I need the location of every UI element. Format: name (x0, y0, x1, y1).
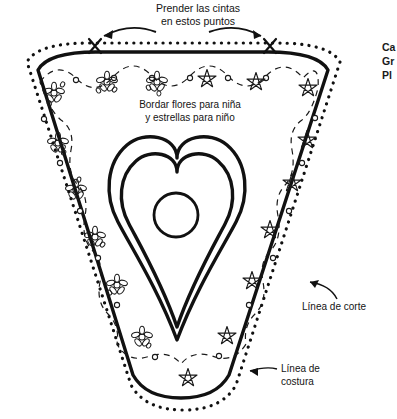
sewing-pattern-diagram: Prender las cintas en estos puntos Borda… (0, 0, 397, 419)
ribbon-arrow-right (209, 28, 261, 39)
flower-icon (131, 326, 153, 349)
top-instruction-note: Prender las cintas en estos puntos (156, 2, 240, 27)
top-note-line-1: Prender las cintas (156, 2, 240, 14)
top-note-line-2: en estos puntos (161, 15, 235, 27)
star-icon (218, 327, 236, 344)
cut-line-label: Línea de corte (302, 301, 366, 312)
center-note-line-2: y estrellas para niño (145, 112, 235, 123)
star-icon (299, 79, 317, 96)
star-icon (261, 221, 279, 238)
cut-line-label-text: Línea de corte (302, 301, 366, 312)
flower-icon (106, 274, 128, 296)
right-margin-truncated-text: Ca Gr Pl (382, 41, 396, 81)
star-icon (247, 73, 265, 90)
center-instruction-note: Bordar flores para niña y estrellas para… (139, 99, 241, 123)
seam-line-label: Línea de costura (281, 363, 320, 387)
seam-line-label-line-1: Línea de (281, 363, 320, 374)
star-icon (198, 70, 216, 87)
right-margin-line-2: Gr (382, 55, 394, 67)
center-circle (154, 193, 198, 237)
flower-icon (145, 71, 168, 96)
seam-line-label-line-2: costura (281, 376, 314, 387)
center-note-line-1: Bordar flores para niña (139, 99, 241, 110)
flower-icon (43, 81, 66, 106)
seam-line-leader (250, 368, 277, 376)
heart-inner-outline (121, 154, 232, 327)
cut-line-leader (310, 280, 337, 299)
ribbon-arrow-left (104, 28, 156, 39)
right-margin-line-1: Ca (382, 41, 396, 53)
right-margin-line-3: Pl (382, 69, 392, 81)
star-icon (179, 369, 197, 386)
